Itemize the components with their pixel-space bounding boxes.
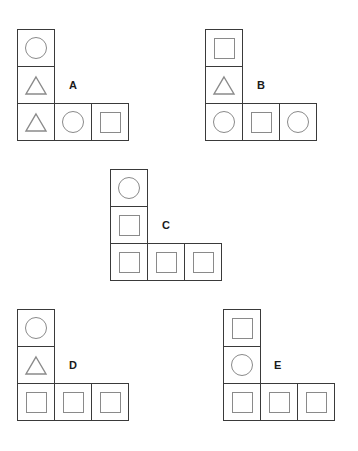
figure-bottom-row: [18, 104, 129, 141]
figure-label-e: E: [274, 360, 282, 371]
figure-label-c: C: [162, 220, 170, 231]
triangle-icon: [24, 73, 48, 97]
cell-d-bottom-0: [17, 383, 55, 421]
cell-e-col-1: [223, 346, 261, 384]
circle-icon: [25, 317, 47, 339]
cell-a-col-1: [17, 66, 55, 104]
cell-b-col-0: [205, 29, 243, 67]
cell-d-col-1: [17, 346, 55, 384]
cell-c-col-1: [110, 206, 148, 244]
cell-c-bottom-1: [147, 243, 185, 281]
square-icon: [269, 392, 290, 413]
figure-bottom-row: [224, 384, 335, 421]
circle-icon: [231, 354, 253, 376]
square-icon: [100, 112, 121, 133]
triangle-icon: [24, 353, 48, 377]
circle-icon: [62, 111, 84, 133]
circle-icon: [287, 111, 309, 133]
cell-d-bottom-1: [54, 383, 92, 421]
cell-e-bottom-2: [297, 383, 335, 421]
cell-e-bottom-1: [260, 383, 298, 421]
cell-a-bottom-2: [91, 103, 129, 141]
cell-c-bottom-0: [110, 243, 148, 281]
cell-a-bottom-0: [17, 103, 55, 141]
square-icon: [119, 252, 140, 273]
square-icon: [119, 215, 140, 236]
cell-b-col-1: [205, 66, 243, 104]
cell-a-col-0: [17, 29, 55, 67]
square-icon: [100, 392, 121, 413]
square-icon: [193, 252, 214, 273]
cell-c-bottom-2: [184, 243, 222, 281]
square-icon: [63, 392, 84, 413]
figure-label-a: A: [69, 80, 77, 91]
circle-icon: [118, 177, 140, 199]
cell-b-bottom-2: [279, 103, 317, 141]
square-icon: [232, 318, 253, 339]
cell-b-bottom-1: [242, 103, 280, 141]
figure-row: [18, 30, 129, 67]
cell-e-bottom-0: [223, 383, 261, 421]
triangle-icon: [24, 110, 48, 134]
figure-bottom-row: [206, 104, 317, 141]
circle-icon: [25, 37, 47, 59]
figure-label-b: B: [257, 80, 265, 91]
square-icon: [306, 392, 327, 413]
cell-e-col-0: [223, 309, 261, 347]
figure-row: [111, 170, 222, 207]
square-icon: [214, 38, 235, 59]
cell-d-bottom-2: [91, 383, 129, 421]
square-icon: [26, 392, 47, 413]
figure-row: [206, 30, 317, 67]
cell-d-col-0: [17, 309, 55, 347]
cell-c-col-0: [110, 169, 148, 207]
figure-bottom-row: [18, 384, 129, 421]
circle-icon: [213, 111, 235, 133]
triangle-icon: [212, 73, 236, 97]
cell-a-bottom-1: [54, 103, 92, 141]
square-icon: [156, 252, 177, 273]
figure-row: [18, 310, 129, 347]
cell-b-bottom-0: [205, 103, 243, 141]
figure-row: [224, 310, 335, 347]
square-icon: [251, 112, 272, 133]
figure-label-d: D: [69, 360, 77, 371]
figure-bottom-row: [111, 244, 222, 281]
square-icon: [232, 392, 253, 413]
